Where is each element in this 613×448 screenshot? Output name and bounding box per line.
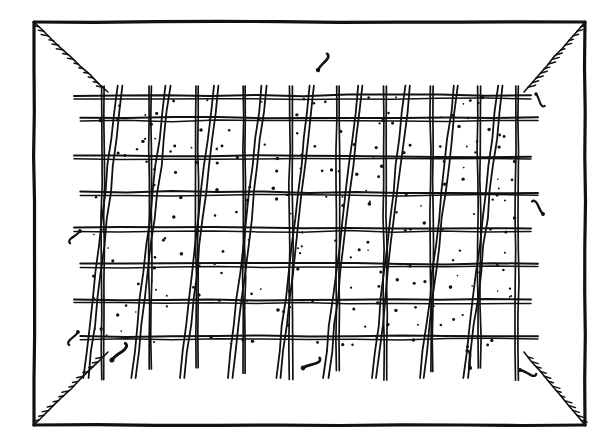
stipple-dot [250,292,253,295]
stipple-dot [509,296,511,298]
debris-top-center [315,52,328,73]
stipple-dot [497,145,500,148]
stipple-dot [377,285,380,288]
illustration-canvas [0,0,613,448]
stipple-dot [497,290,499,292]
perspective-edge-line [524,22,585,92]
stipple-dot [378,122,380,124]
stipple-dot [423,221,427,225]
stipple-dot [486,344,489,347]
stipple-dot [330,168,333,171]
perspective-edge-tick [84,73,89,74]
stipple-dot [214,214,216,216]
stipple-dot [313,102,315,104]
stipple-dot [350,256,352,258]
box-outline-edge [34,425,585,426]
perspective-edge-top-left [34,22,108,92]
perspective-edge-tick [39,415,44,416]
stipple-dot [144,114,146,116]
stipple-dot [414,306,417,309]
stipple-dot [417,324,419,326]
stipple-dot [325,196,327,198]
debris-bottom-right [460,350,478,371]
box-outline-edge [585,22,586,425]
stipple-dot [191,147,193,149]
stipple-dot [375,146,378,149]
stipple-dot [473,213,475,215]
stipple-dot [120,330,122,332]
stipple-dot [420,205,422,207]
perspective-edge-bottom-right [524,352,587,425]
stipple-dot [316,341,319,344]
perspective-edge-bottom-left [34,352,108,425]
stipple-dot [137,282,140,285]
stipple-dot [222,250,225,253]
stipple-dot [141,140,144,143]
stipple-dot [423,280,426,283]
stipple-dot [117,151,120,154]
stipple-dot [173,144,176,147]
stipple-dot [364,326,366,328]
stipple-dot [504,200,506,202]
stipple-dot [155,112,158,115]
stipple-dot [264,143,266,145]
stipple-dot [396,278,400,282]
stipple-dot [228,129,231,132]
stipple-dot [365,190,367,192]
stipple-dot [235,211,238,214]
post-edge [383,86,384,380]
stipple-dot [261,101,263,103]
post-edge [336,86,337,371]
perspective-edge-top-right [524,22,585,92]
box-outline-edge [34,21,585,22]
perspective-edge-tick [59,396,64,397]
stipple-dot [116,313,119,316]
perspective-edge-line [524,352,585,425]
perspective-edge-tick [38,30,44,31]
debris-stroke [529,200,546,214]
stipple-dot [276,308,280,312]
debris-stroke [462,350,477,368]
perspective-edge-tick [34,420,39,421]
stipple-dot [154,138,156,140]
stipple-dot [111,259,114,262]
stipple-dot [498,187,500,189]
stipple-dot [272,186,275,189]
stipple-dot [503,135,506,138]
stipple-dot [93,234,95,236]
stipple-dot [221,145,224,148]
perspective-edge-tick [69,386,74,387]
stipple-dot [290,213,292,215]
stipple-dot [135,311,137,313]
stipple-dot [313,145,316,148]
post-edge [339,86,340,371]
perspective-edge-tick [34,26,39,27]
stipple-dot [166,295,168,297]
stipple-dot [413,282,416,285]
debris-stroke [520,369,536,377]
stipple-dot [504,252,506,254]
stipple-dot [492,198,494,200]
stipple-dot [461,178,464,181]
stipple-dot [367,249,369,251]
stipple-dot [462,314,464,316]
stipple-dot [260,288,262,290]
stipple-dot [457,275,459,277]
stipple-dot [125,304,128,307]
perspective-edge-tick [88,77,93,78]
debris-stroke [532,94,547,107]
stipple-dot [379,270,382,273]
stipple-dot [466,146,468,148]
stipple-dot [297,247,299,249]
perspective-edge-tick [74,63,78,64]
stipple-dot [155,289,157,291]
stipple-dot [449,285,453,289]
stipple-dot [144,138,146,140]
stipple-dot [172,215,175,218]
stipple-dot [324,100,327,103]
stipple-dot [498,134,501,137]
perspective-edge-tick [49,40,54,41]
stipple-dot [342,196,344,198]
stipple-dot [216,148,219,151]
perspective-edge-tick [79,68,83,69]
